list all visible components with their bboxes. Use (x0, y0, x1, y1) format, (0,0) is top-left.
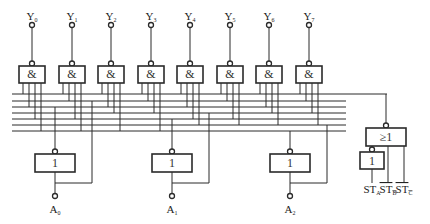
address-label-0-subscript: 0 (57, 210, 60, 216)
and-symbol: & (67, 67, 77, 81)
inverter-symbol: 1 (369, 154, 375, 168)
and-symbol: & (106, 67, 116, 81)
output-label-6: Y6 (264, 10, 275, 23)
output-label-0-subscript: 0 (34, 17, 37, 23)
output-terminal (70, 23, 75, 28)
enable-label-2-main: ST (396, 183, 409, 195)
and-symbol: & (264, 67, 274, 81)
and-symbol: & (146, 67, 156, 81)
output-label-5: Y5 (225, 10, 236, 23)
input-terminal (170, 194, 175, 199)
address-label-1-subscript: 1 (174, 210, 177, 216)
output-label-7-main: Y (304, 10, 312, 22)
and-gate-6: &Y6 (256, 10, 282, 125)
inverter-symbol: 1 (287, 156, 293, 170)
output-label-6-main: Y (264, 10, 272, 22)
address-label-2-subscript: 2 (292, 210, 295, 216)
address-label-0-main: A (50, 203, 58, 215)
output-label-0: Y0 (27, 10, 38, 23)
enable-label-1: STB (380, 183, 397, 196)
and-gate-4: &Y4 (177, 10, 203, 125)
output-label-2-main: Y (106, 10, 114, 22)
output-label-4-main: Y (185, 10, 193, 22)
inverter-1: 1A1 (152, 113, 209, 216)
enable-label-2: STC (396, 183, 413, 196)
output-terminal (228, 23, 233, 28)
output-label-5-subscript: 5 (232, 17, 235, 23)
inverter-symbol: 1 (52, 156, 58, 170)
address-label-2-main: A (285, 203, 293, 215)
output-terminal (307, 23, 312, 28)
output-label-2: Y2 (106, 10, 117, 23)
output-label-1: Y1 (67, 10, 78, 23)
or-symbol: ≥1 (380, 130, 393, 144)
output-label-5-main: Y (225, 10, 233, 22)
and-symbol: & (304, 67, 314, 81)
input-terminal (288, 194, 293, 199)
enable-label-0-main: ST (363, 183, 376, 195)
enable-label-1-main: ST (380, 183, 393, 195)
address-label-2: A2 (285, 203, 296, 216)
output-terminal (109, 23, 114, 28)
output-label-3-main: Y (146, 10, 154, 22)
output-label-1-main: Y (67, 10, 75, 22)
inverter-symbol: 1 (169, 156, 175, 170)
output-label-3: Y3 (146, 10, 157, 23)
input-terminal (53, 194, 58, 199)
output-label-7: Y7 (304, 10, 315, 23)
and-gate-5: &Y5 (217, 10, 243, 125)
output-terminal (30, 23, 35, 28)
output-terminal (267, 23, 272, 28)
output-terminal (149, 23, 154, 28)
address-label-1-main: A (167, 203, 175, 215)
output-label-2-subscript: 2 (113, 17, 116, 23)
output-label-4: Y4 (185, 10, 196, 23)
output-label-6-subscript: 6 (271, 17, 274, 23)
and-symbol: & (225, 67, 235, 81)
address-label-0: A0 (50, 203, 61, 216)
inverter-2: 1A2 (270, 125, 327, 216)
output-label-4-subscript: 4 (192, 17, 195, 23)
and-gate-7: &Y7 (296, 10, 322, 125)
decoder-circuit: &Y0&Y1&Y2&Y3&Y4&Y5&Y6&Y7 1A01A11A2 ≥11ST… (0, 0, 430, 224)
address-label-1: A1 (167, 203, 178, 216)
enable-label-0: STA (363, 183, 381, 196)
output-label-3-subscript: 3 (153, 17, 156, 23)
output-label-1-subscript: 1 (74, 17, 77, 23)
output-terminal (188, 23, 193, 28)
enable-label-2-subscript: C (408, 190, 412, 196)
enable-block: ≥11STASTBSTC (360, 94, 412, 196)
output-label-7-subscript: 7 (311, 17, 314, 23)
inverter-0: 1A0 (35, 101, 92, 216)
and-symbol: & (27, 67, 37, 81)
inverters: 1A01A11A2 (35, 101, 327, 216)
output-label-0-main: Y (27, 10, 35, 22)
and-symbol: & (185, 67, 195, 81)
